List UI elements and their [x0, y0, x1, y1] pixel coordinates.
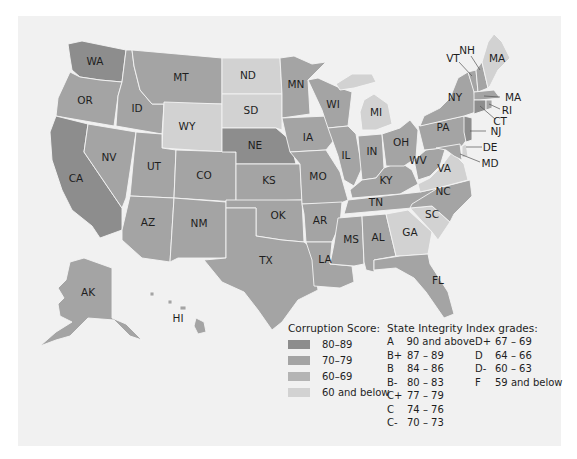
grade-letter: C	[387, 404, 407, 418]
label-nv: NV	[101, 151, 117, 163]
grade-letter: B-	[387, 377, 407, 391]
label-ia: IA	[303, 131, 314, 143]
grade-item: D-60 – 63	[475, 363, 565, 377]
score-label: 60–69	[322, 371, 352, 382]
grade-range: 74 – 76	[407, 404, 444, 418]
grade-range: 90 and above	[406, 336, 475, 350]
grade-range: 84 – 86	[407, 363, 444, 377]
state-AZ[interactable]	[122, 196, 174, 262]
label-md: MD	[481, 157, 498, 169]
label-ca: CA	[69, 172, 84, 184]
label-ut: UT	[147, 160, 162, 172]
grade-letter: D	[475, 350, 495, 364]
grade-range: 80 – 83	[407, 377, 444, 391]
state-AK[interactable]	[40, 258, 142, 346]
state-NM[interactable]	[170, 198, 226, 262]
grade-item: D64 – 66	[475, 350, 565, 364]
score-row-80-89: 80–89	[288, 336, 389, 352]
score-label: 60 and below	[322, 387, 389, 398]
label-nj: NJ	[491, 125, 502, 137]
score-label: 70–79	[322, 355, 352, 366]
grade-range: 59 and below	[495, 377, 562, 391]
score-row-70-79: 70–79	[288, 352, 389, 368]
grade-item: C+77 – 79	[387, 390, 475, 404]
label-ks: KS	[262, 174, 276, 186]
state-FL[interactable]	[374, 254, 454, 318]
grade-item: B84 – 86	[387, 363, 475, 377]
grade-letter: D+	[475, 336, 495, 350]
label-nd: ND	[240, 69, 256, 81]
label-mo: MO	[309, 170, 326, 182]
swatch-80-89	[288, 340, 310, 349]
label-ok: OK	[270, 209, 286, 221]
state-HI-island3[interactable]	[180, 306, 186, 310]
grade-range: 77 – 79	[407, 390, 444, 404]
label-ar: AR	[313, 214, 327, 226]
label-nm: NM	[191, 217, 208, 229]
grade-range: 60 – 63	[495, 363, 532, 377]
label-la: LA	[318, 253, 332, 265]
label-wy: WY	[179, 120, 196, 132]
grade-letter: F	[475, 377, 495, 391]
grade-letter: C+	[387, 390, 407, 404]
label-hi: HI	[173, 312, 184, 324]
state-NJ[interactable]	[464, 116, 472, 142]
corruption-score-title: Corruption Score:	[288, 322, 389, 334]
grade-letter: B+	[387, 350, 407, 364]
grade-letter: B	[387, 363, 407, 377]
label-ga: GA	[402, 226, 418, 238]
grade-item: A90 and above	[387, 336, 475, 350]
label-me: MA	[489, 52, 506, 64]
label-ms: MS	[343, 233, 359, 245]
state-HI[interactable]	[194, 318, 206, 334]
callout-nh	[471, 56, 480, 70]
label-oh: OH	[393, 136, 409, 148]
grade-grid: A90 and above B+87 – 89 B84 – 86 B-80 – …	[387, 336, 565, 431]
swatch-60-69	[288, 372, 310, 381]
label-co: CO	[196, 169, 212, 181]
label-nh: NH	[459, 44, 475, 56]
integrity-grade-title: State Integrity Index grades:	[387, 322, 565, 334]
label-ne: NE	[248, 139, 263, 151]
label-ky: KY	[380, 174, 394, 186]
label-ak: AK	[81, 286, 96, 298]
label-wv: WV	[409, 154, 427, 166]
label-il: IL	[342, 149, 351, 161]
label-or: OR	[77, 94, 93, 106]
grade-item: C74 – 76	[387, 404, 475, 418]
grade-letter: D-	[475, 363, 495, 377]
score-label: 80–89	[322, 339, 352, 350]
grade-item: B+87 – 89	[387, 350, 475, 364]
label-ny: NY	[448, 91, 463, 103]
grade-range: 67 – 69	[495, 336, 532, 350]
label-mn: MN	[288, 78, 305, 90]
label-de: DE	[483, 141, 498, 153]
integrity-grade-legend: State Integrity Index grades: A90 and ab…	[387, 322, 565, 431]
grade-item: F59 and below	[475, 377, 565, 391]
swatch-70-79	[288, 356, 310, 365]
state-HI-island2[interactable]	[168, 300, 172, 304]
grade-item: D+67 – 69	[475, 336, 565, 350]
state-CT[interactable]	[474, 100, 486, 114]
label-tn: TN	[368, 196, 383, 208]
state-MI-upper[interactable]	[336, 74, 376, 90]
grade-letter: A	[387, 336, 406, 350]
label-mt: MT	[173, 71, 189, 83]
label-ma: MA	[505, 91, 522, 103]
label-sc: SC	[425, 208, 439, 220]
label-mi: MI	[370, 106, 382, 118]
grade-range: 87 – 89	[407, 350, 444, 364]
score-row-60-69: 60–69	[288, 368, 389, 384]
grade-item: C-70 – 73	[387, 417, 475, 431]
label-wa: WA	[87, 55, 105, 67]
swatch-60-below	[288, 388, 310, 397]
grade-range: 64 – 66	[495, 350, 532, 364]
label-sd: SD	[244, 104, 259, 116]
state-MA[interactable]	[474, 90, 500, 100]
label-wi: WI	[326, 98, 339, 110]
label-tx: TX	[258, 254, 273, 266]
grade-range: 70 – 73	[407, 417, 444, 431]
label-fl: FL	[432, 274, 444, 286]
state-HI-island4[interactable]	[150, 292, 154, 296]
corruption-score-legend: Corruption Score: 80–89 70–79 60–69 60 a…	[288, 322, 389, 400]
